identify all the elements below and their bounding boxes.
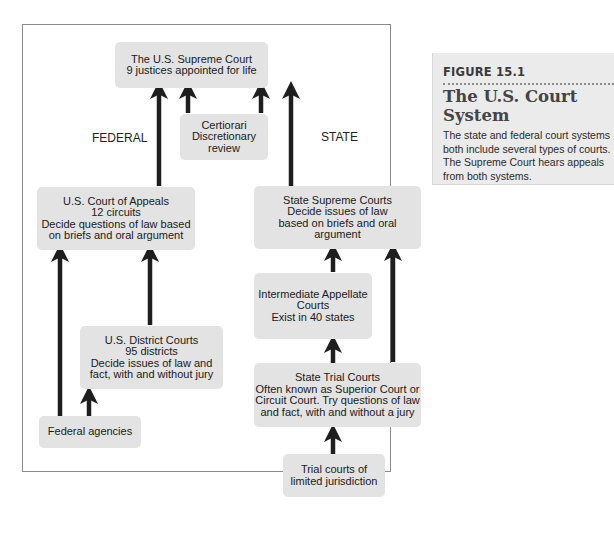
box-limited-jurisdiction: Trial courts of limited jurisdiction — [283, 454, 385, 497]
box-line: Decide issues of law — [287, 206, 387, 218]
box-line: on briefs and oral argument — [49, 230, 184, 242]
box-line: and fact, with and without a jury — [260, 407, 414, 419]
box-us-court-of-appeals: U.S. Court of Appeals 12 circuits Decide… — [37, 187, 195, 250]
figure-caption-panel: FIGURE 15.1 The U.S. Court System The st… — [432, 53, 614, 185]
box-us-district-courts: U.S. District Courts 95 districts Decide… — [80, 326, 223, 389]
box-certiorari: Certiorari Discretionary review — [180, 114, 268, 160]
box-intermediate-appellate: Intermediate Appellate Courts Exist in 4… — [254, 273, 372, 339]
label-federal: FEDERAL — [92, 131, 147, 145]
box-line: fact, with and without jury — [90, 369, 214, 381]
box-line: 95 districts — [125, 346, 178, 358]
box-federal-agencies: Federal agencies — [39, 416, 141, 448]
box-state-trial-courts: State Trial Courts Often known as Superi… — [254, 363, 421, 427]
box-line: limited jurisdiction — [291, 476, 378, 488]
box-line: argument — [314, 229, 360, 241]
box-line: review — [208, 143, 240, 155]
box-line: State Trial Courts — [295, 372, 380, 384]
box-line: Trial courts of — [301, 464, 367, 476]
box-line: 9 justices appointed for life — [126, 65, 256, 77]
label-state: STATE — [321, 130, 358, 144]
box-line: Federal agencies — [48, 426, 132, 438]
dotted-divider — [443, 83, 614, 85]
box-line: Exist in 40 states — [271, 312, 354, 324]
box-state-supreme-courts: State Supreme Courts Decide issues of la… — [254, 186, 421, 249]
box-us-supreme-court: The U.S. Supreme Court 9 justices appoin… — [115, 42, 268, 88]
box-line: 12 circuits — [91, 207, 141, 219]
figure-number: FIGURE 15.1 — [443, 65, 525, 79]
figure-title: The U.S. Court System — [443, 87, 614, 125]
figure-caption: The state and federal court systems both… — [443, 129, 611, 183]
box-line: Circuit Court. Try questions of law — [255, 395, 419, 407]
